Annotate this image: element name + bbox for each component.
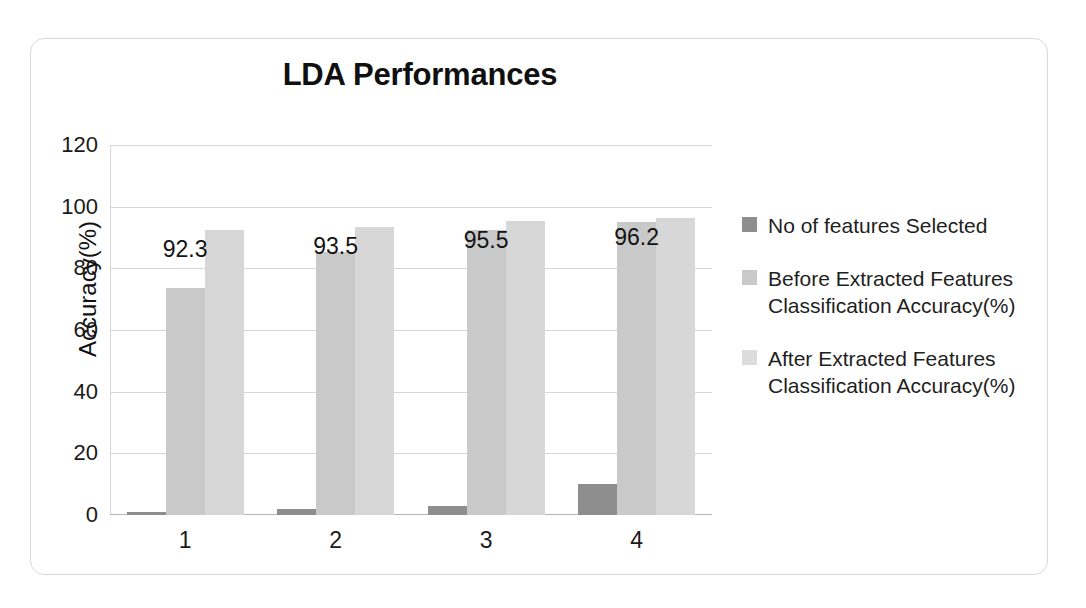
legend-item[interactable]: Before Extracted Features Classification… — [742, 265, 1042, 319]
bar-group: 93.5 — [261, 145, 412, 515]
y-tick-label: 100 — [38, 194, 98, 220]
legend-label: After Extracted Features Classification … — [768, 345, 1042, 399]
bar-group: 92.3 — [110, 145, 261, 515]
legend-swatch-icon — [742, 270, 757, 285]
legend-item[interactable]: No of features Selected — [742, 212, 1042, 239]
bar[interactable] — [617, 222, 656, 515]
bar[interactable] — [166, 288, 205, 515]
bar[interactable] — [656, 218, 695, 515]
legend-label: No of features Selected — [768, 212, 987, 239]
y-tick-label: 20 — [38, 440, 98, 466]
legend-swatch-icon — [742, 350, 757, 365]
y-tick-label: 60 — [38, 317, 98, 343]
bar[interactable] — [277, 509, 316, 515]
chart-legend: No of features SelectedBefore Extracted … — [742, 212, 1042, 425]
bar-group: 95.5 — [411, 145, 562, 515]
x-tick-label: 4 — [597, 527, 677, 554]
y-axis-tick-labels: 020406080100120 — [36, 145, 98, 515]
y-tick-label: 80 — [38, 255, 98, 281]
x-tick-label: 3 — [446, 527, 526, 554]
bar-value-label: 95.5 — [464, 227, 509, 254]
y-tick-label: 0 — [38, 502, 98, 528]
bar-value-label: 93.5 — [313, 233, 358, 260]
legend-item[interactable]: After Extracted Features Classification … — [742, 345, 1042, 399]
plot-area: 92.393.595.596.2 — [110, 145, 712, 515]
bar[interactable] — [205, 230, 244, 515]
bar[interactable] — [506, 221, 545, 515]
legend-swatch-icon — [742, 217, 757, 232]
x-tick-label: 1 — [145, 527, 225, 554]
x-tick-label: 2 — [296, 527, 376, 554]
chart-title: LDA Performances — [120, 57, 720, 93]
y-tick-label: 40 — [38, 379, 98, 405]
y-tick-label: 120 — [38, 132, 98, 158]
bar[interactable] — [428, 506, 467, 515]
bar[interactable] — [578, 484, 617, 515]
bar[interactable] — [355, 227, 394, 515]
bar[interactable] — [127, 512, 166, 515]
bar[interactable] — [467, 230, 506, 515]
bar-value-label: 92.3 — [163, 236, 208, 263]
bar[interactable] — [316, 252, 355, 515]
bar-value-label: 96.2 — [614, 224, 659, 251]
bar-group: 96.2 — [562, 145, 713, 515]
legend-label: Before Extracted Features Classification… — [768, 265, 1042, 319]
